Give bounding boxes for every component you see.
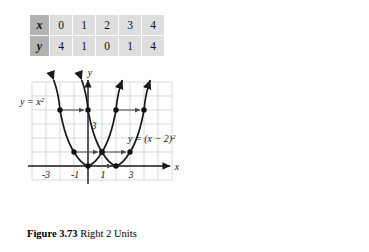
table-cell-y2: 0 [96, 36, 118, 56]
table-cell-x2: 2 [96, 15, 118, 35]
curve-label-shifted: y = (x − 2)2 [127, 133, 176, 146]
data-table-373: x 0 1 2 3 4 y 4 1 0 1 4 [29, 14, 165, 57]
table-cell-x0: 0 [50, 15, 72, 35]
table-row: y 4 1 0 1 4 [30, 36, 164, 56]
graph-373: -3 -1 1 3 3 x y y = x2 y = (x − 2)2 [18, 68, 184, 194]
table-cell-x4: 4 [142, 15, 164, 35]
curve-label-original: y = x2 [19, 96, 45, 108]
x-tick-minus-1: -1 [71, 170, 79, 180]
y-tick-3: 3 [91, 121, 97, 131]
x-tick-1: 1 [101, 170, 106, 180]
table-cell-x1: 1 [73, 15, 95, 35]
figure-373-panel: x 0 1 2 3 4 y 4 1 0 1 4 [0, 0, 184, 252]
x-tick-minus-3: -3 [42, 170, 50, 180]
table-cell-y3: 1 [119, 36, 141, 56]
table-header-x: x [30, 15, 49, 35]
table-cell-y4: 4 [142, 36, 164, 56]
figure-374-panel: x 2 3 6 y 0 1 2 [185, 0, 369, 252]
x-axis-label: x [174, 161, 180, 172]
table-cell-x3: 3 [119, 15, 141, 35]
figure-caption-373: Figure 3.73 Right 2 Units [27, 228, 137, 239]
table-cell-y0: 4 [50, 36, 72, 56]
x-tick-3: 3 [128, 170, 134, 180]
table-row: x 0 1 2 3 4 [30, 15, 164, 35]
table-cell-y1: 1 [73, 36, 95, 56]
figure-number: Figure 3.73 [27, 228, 78, 239]
y-axis-label: y [87, 68, 93, 78]
figure-subtitle: Right 2 Units [80, 228, 137, 239]
table-header-y: y [30, 36, 49, 56]
